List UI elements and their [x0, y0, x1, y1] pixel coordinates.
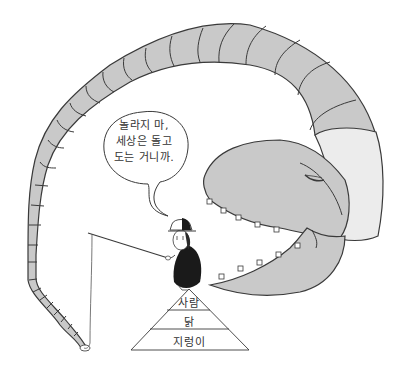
speech-line-2: 세상은 돌고 [104, 134, 184, 150]
speech-line-3: 도는 거니까. [104, 150, 184, 166]
pyramid-tier-bottom: 지렁이 [149, 333, 229, 349]
pyramid-tier-middle: 닭 [149, 313, 229, 329]
pyramid-tier-top: 사람 [149, 294, 229, 310]
fishing-line [84, 234, 92, 348]
illustration-canvas: 놀라지 마, 세상은 돌고 도는 거니까. 사람 닭 지렁이 [0, 0, 404, 379]
speech-bubble-text: 놀라지 마, 세상은 돌고 도는 거니까. [104, 118, 184, 166]
speech-line-1: 놀라지 마, [104, 118, 184, 134]
worm-lower-jaw [210, 228, 345, 295]
fisherman [166, 218, 202, 290]
